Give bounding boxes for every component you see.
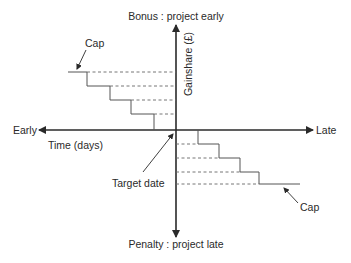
label-y-axis: Gainshare (£) xyxy=(182,32,194,96)
label-late: Late xyxy=(316,124,337,136)
cap-upper-pointer-arrow xyxy=(77,50,86,69)
label-target-date: Target date xyxy=(112,177,165,189)
diagram-canvas: Bonus : project early Penalty : project … xyxy=(0,0,351,263)
cap-lower-pointer-arrow xyxy=(284,188,298,203)
label-x-axis: Time (days) xyxy=(48,139,103,151)
penalty-dashed-levels xyxy=(176,144,259,184)
gainshare-diagram: Bonus : project early Penalty : project … xyxy=(0,0,351,263)
label-cap-lower: Cap xyxy=(300,201,319,213)
target-date-pointer-arrow xyxy=(143,134,173,172)
penalty-steps xyxy=(198,130,300,184)
axes xyxy=(39,25,313,237)
label-penalty: Penalty : project late xyxy=(128,238,223,250)
label-cap-upper: Cap xyxy=(85,37,104,49)
label-bonus: Bonus : project early xyxy=(128,10,224,22)
bonus-steps xyxy=(68,72,154,130)
label-early: Early xyxy=(13,124,38,136)
